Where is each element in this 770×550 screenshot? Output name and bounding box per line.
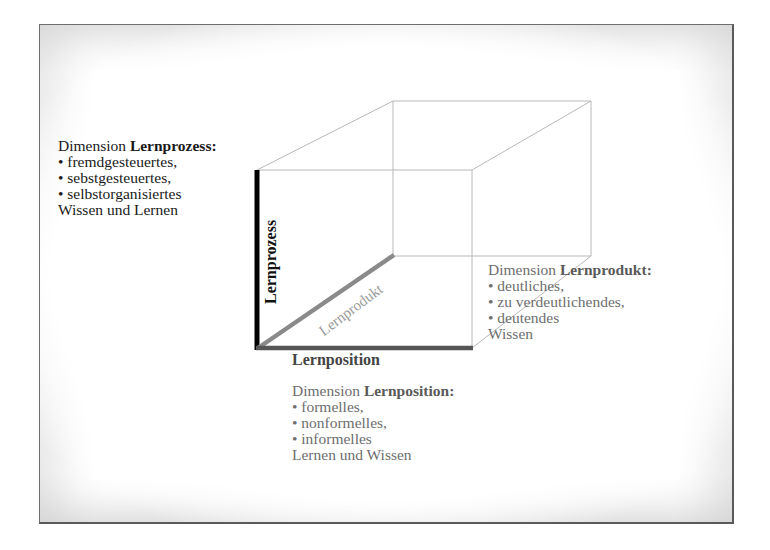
list-item: • deutendes bbox=[488, 310, 652, 326]
dimension-lernprodukt-footer: Wissen bbox=[488, 326, 652, 342]
list-item: • nonformelles, bbox=[292, 415, 454, 431]
list-item: • selbstorganisiertes bbox=[58, 186, 217, 202]
dimension-lernposition-block: Dimension Lernposition: • formelles, • n… bbox=[292, 383, 454, 463]
dimension-lernprozess-title: Dimension Lernprozess: bbox=[58, 138, 217, 154]
list-item: • informelles bbox=[292, 431, 454, 447]
list-item: • formelles, bbox=[292, 399, 454, 415]
dimension-lernprozess-block: Dimension Lernprozess: • fremdgesteuerte… bbox=[58, 138, 217, 218]
list-item: • sebstgesteuertes, bbox=[58, 170, 217, 186]
list-item: • zu verdeutlichendes, bbox=[488, 294, 652, 310]
dimension-lernposition-title: Dimension Lernposition: bbox=[292, 383, 454, 399]
list-item: • fremdgesteuertes, bbox=[58, 154, 217, 170]
axis-label-lernposition: Lernposition bbox=[292, 351, 380, 369]
cube-diagram bbox=[0, 0, 770, 550]
dimension-lernprodukt-block: Dimension Lernprodukt: • deutliches, • z… bbox=[488, 262, 652, 342]
axis-label-lernprozess: Lernprozess bbox=[262, 220, 280, 304]
dimension-lernprodukt-title: Dimension Lernprodukt: bbox=[488, 262, 652, 278]
list-item: • deutliches, bbox=[488, 278, 652, 294]
dimension-lernprozess-footer: Wissen und Lernen bbox=[58, 202, 217, 218]
dimension-lernposition-footer: Lernen und Wissen bbox=[292, 447, 454, 463]
